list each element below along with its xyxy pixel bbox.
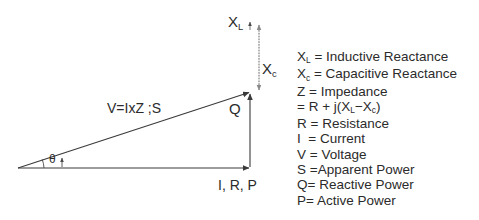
label-inductive-reactance: XL — [228, 13, 243, 30]
legend-item: XL = Inductive Reactance — [297, 49, 457, 66]
legend-symbol-subscript: c — [306, 73, 310, 83]
legend-description: = R + j(X — [297, 99, 350, 114]
legend-item: Q= Reactive Power — [297, 177, 457, 192]
legend-description: =Apparent Power — [306, 162, 414, 177]
legend-item: S =Apparent Power — [297, 162, 457, 177]
legend-formula-part: ) — [376, 99, 381, 114]
legend-description: = Current — [301, 131, 365, 146]
legend-description: = Impedance — [305, 84, 387, 99]
legend-formula-subscript: c — [372, 105, 376, 115]
legend-description: = Reactive Power — [308, 177, 414, 192]
legend-symbol-subscript: L — [306, 55, 311, 65]
legend-item: R = Resistance — [297, 116, 457, 131]
angle-arc — [42, 159, 44, 168]
legend-list: XL = Inductive ReactanceXc = Capacitive … — [297, 49, 457, 208]
legend-item: I = Current — [297, 131, 457, 146]
legend-item: = R + j(XL−Xc) — [297, 99, 457, 116]
legend-description: = Active Power — [306, 193, 396, 208]
legend-item: Z = Impedance — [297, 84, 457, 99]
legend-symbol: X — [297, 66, 306, 81]
legend-symbol: S — [297, 162, 306, 177]
legend-item: Xc = Capacitive Reactance — [297, 66, 457, 83]
legend-description: = Voltage — [306, 147, 366, 162]
legend-symbol: V — [297, 147, 306, 162]
legend-symbol: Q — [297, 177, 308, 192]
label-reactive-power: Q — [229, 100, 241, 117]
legend-symbol: P — [297, 193, 306, 208]
label-capacitive-reactance: Xc — [262, 60, 277, 77]
legend-description: = Resistance — [307, 116, 389, 131]
legend-symbol: Z — [297, 84, 305, 99]
legend-symbol: R — [297, 116, 307, 131]
label-voltage-vector: V=IxZ ;S — [107, 100, 161, 116]
legend-item: V = Voltage — [297, 147, 457, 162]
label-horizontal-axis: I, R, P — [218, 177, 257, 193]
legend-description: = Inductive Reactance — [311, 49, 449, 64]
legend-formula-part: −X — [355, 99, 372, 114]
legend-symbol: X — [297, 49, 306, 64]
legend-item: P= Active Power — [297, 193, 457, 208]
phasor-diagram-figure: XL Xc Q V=IxZ ;S θ I, R, P XL = Inductiv… — [0, 0, 479, 220]
label-phase-angle: θ — [49, 152, 56, 166]
legend-description: = Capacitive Reactance — [310, 66, 457, 81]
legend-formula-subscript: L — [350, 105, 355, 115]
